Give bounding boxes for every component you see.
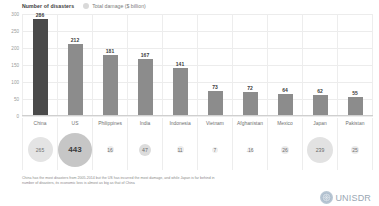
- bar-column-mexico: 64: [268, 14, 303, 116]
- bubble-cell-philippines: 16: [93, 129, 128, 170]
- bubble-cell-china: 265: [22, 129, 58, 170]
- y-axis-tick: 150: [11, 63, 19, 68]
- damage-bubble[interactable]: 239: [307, 137, 333, 163]
- damage-bubble[interactable]: 7: [212, 147, 218, 153]
- bar-column-vietnam: 73: [198, 14, 233, 116]
- bar[interactable]: 72: [243, 92, 258, 116]
- bar-column-afghanistan: 72: [233, 14, 268, 116]
- bar-value-label: 212: [71, 37, 79, 43]
- bar-columns: 286 212 181 167: [22, 14, 373, 116]
- bar[interactable]: 55: [348, 97, 363, 116]
- bubble-cell-vietnam: 7: [198, 129, 233, 170]
- bubble-cell-japan: 239: [303, 129, 338, 170]
- bar-value-label: 62: [317, 88, 323, 94]
- bubble-cell-india: 47: [128, 129, 163, 170]
- bar-column-china: 286: [22, 14, 58, 116]
- x-axis-label-indonesia: Indonesia: [163, 118, 198, 129]
- x-axis-label-afghanistan: Afghanistan: [233, 118, 268, 129]
- bar-value-label: 55: [352, 90, 358, 96]
- bubble-cell-mexico: 26: [268, 129, 303, 170]
- infographic-root: Number of disasters Total damage ($ bill…: [0, 0, 379, 206]
- bar-chart: 300 250 200 150 100 50 0: [0, 14, 379, 126]
- damage-bubble-value: 16: [107, 147, 113, 153]
- x-axis-label-vietnam: Vietnam: [198, 118, 233, 129]
- bar[interactable]: 167: [138, 59, 153, 116]
- bar-value-label: 286: [36, 12, 44, 18]
- y-axis-tick: 300: [11, 12, 19, 17]
- x-axis-label-pakistan: Pakistan: [338, 118, 373, 129]
- legend-label-disasters: Number of disasters: [22, 3, 74, 9]
- unisdr-logo: UNISDR: [320, 191, 371, 204]
- legend-label-damage: Total damage ($ billion): [92, 3, 146, 9]
- bar-value-label: 72: [247, 85, 253, 91]
- bar[interactable]: 181: [103, 55, 118, 117]
- y-axis-tick: 50: [14, 96, 19, 101]
- damage-bubble[interactable]: 26: [281, 146, 289, 154]
- bar-value-label: 167: [141, 52, 149, 58]
- bar[interactable]: 64: [278, 94, 293, 116]
- damage-bubble-value: 265: [36, 147, 44, 153]
- bubble-cell-indonesia: 11: [163, 129, 198, 170]
- plot-area: 300 250 200 150 100 50 0: [22, 14, 373, 116]
- bar-column-philippines: 181: [93, 14, 128, 116]
- bar-value-label: 64: [282, 87, 288, 93]
- damage-bubble[interactable]: 16: [107, 146, 114, 153]
- x-axis-label-india: India: [128, 118, 163, 129]
- x-axis-label-japan: Japan: [303, 118, 338, 129]
- x-axis-label-philippines: Philippines: [93, 118, 128, 129]
- bar-column-us: 212: [58, 14, 93, 116]
- un-emblem-icon: [320, 191, 333, 204]
- y-axis-tick: 200: [11, 45, 19, 50]
- bubble-cell-us: 443: [58, 129, 93, 170]
- bar-value-label: 141: [176, 61, 184, 67]
- bar[interactable]: 141: [173, 68, 188, 116]
- damage-bubble-row: 265 443 16 47 11 7: [22, 129, 373, 170]
- damage-bubble-value: .16: [247, 147, 254, 153]
- damage-bubble[interactable]: 47: [139, 144, 151, 156]
- damage-bubble-value: 11: [177, 147, 182, 153]
- damage-bubble[interactable]: 25: [351, 146, 359, 154]
- damage-bubble-value: 443: [68, 145, 81, 154]
- bar-column-indonesia: 141: [163, 14, 198, 116]
- damage-bubble-value: 7: [214, 147, 217, 153]
- legend-item-disasters: Number of disasters: [22, 3, 74, 9]
- x-axis-label-mexico: Mexico: [268, 118, 303, 129]
- damage-bubble-value: 26: [282, 147, 288, 153]
- x-axis-baseline: [22, 115, 373, 116]
- bar-value-label: 181: [106, 48, 114, 54]
- y-axis-tick: 250: [11, 28, 19, 33]
- bar[interactable]: 286: [33, 19, 48, 116]
- damage-bubble-value: 239: [316, 147, 325, 153]
- bar-column-japan: 62: [303, 14, 338, 116]
- bar-column-pakistan: 55: [338, 14, 373, 116]
- bar[interactable]: 62: [313, 95, 328, 116]
- damage-bubble[interactable]: 443: [58, 133, 92, 167]
- circle-swatch-icon: [83, 3, 89, 9]
- y-axis-tick: 0: [16, 114, 19, 119]
- damage-bubble-value: 47: [142, 147, 148, 153]
- x-axis-labels: China US Philippines India Indonesia Vie…: [22, 118, 373, 129]
- damage-bubble[interactable]: .16: [247, 147, 253, 153]
- unisdr-logo-text: UNISDR: [335, 193, 371, 203]
- bar-value-label: 73: [212, 84, 218, 90]
- damage-bubble-value: 25: [352, 147, 358, 153]
- footnote-text: China has the most disasters from 2005-2…: [22, 176, 218, 186]
- bar-column-india: 167: [128, 14, 163, 116]
- y-axis-tick: 100: [11, 79, 19, 84]
- chart-legend: Number of disasters Total damage ($ bill…: [22, 3, 146, 9]
- bubble-cell-pakistan: 25: [338, 129, 373, 170]
- legend-item-damage: Total damage ($ billion): [83, 3, 146, 9]
- bar[interactable]: 212: [68, 44, 83, 116]
- damage-bubble[interactable]: 11: [177, 146, 184, 153]
- gridline: 0: [22, 116, 373, 117]
- bar[interactable]: 73: [208, 91, 223, 116]
- x-axis-label-china: China: [22, 118, 58, 129]
- x-axis-label-us: US: [58, 118, 93, 129]
- bubble-cell-afghanistan: .16: [233, 129, 268, 170]
- damage-bubble[interactable]: 265: [28, 137, 53, 162]
